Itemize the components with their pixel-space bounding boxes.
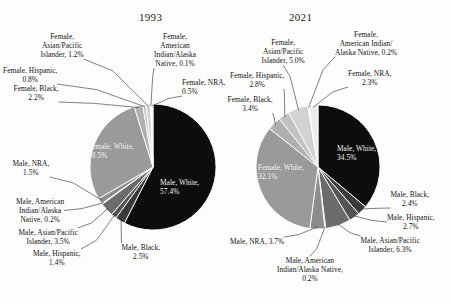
- pie-label-2021-male-nra: Male, NRA, 3.7%: [230, 237, 284, 246]
- figure-canvas: 1993 2021 Male, White, 57.4%Female, Whit…: [0, 0, 452, 303]
- chart-title-2021: 2021: [289, 11, 312, 23]
- pie-label-2021-female-nra: Female, NRA, 2.3%: [348, 69, 392, 87]
- pie-label-2021-female-hispanic: Female, Hispanic, 2.8%: [230, 71, 284, 89]
- pie-label-1993-female-white: Female, White, 28.5%: [88, 142, 134, 160]
- pie-label-2021-male-white: Male, White, 34.5%: [337, 144, 376, 162]
- pie-label-1993-male-nra: Male, NRA, 1.5%: [13, 159, 50, 177]
- leader-line-1993-female-american-indian-alaska-native: [151, 68, 154, 106]
- pie-label-1993-male-hispanic: Male, Hispanic, 1.4%: [33, 249, 81, 267]
- pie-label-1993-male-black: Male, Black, 2.5%: [122, 243, 161, 261]
- pie-label-1993-male-asian-pacific-islander: Male, Asian/Pacific Islander, 3.5%: [19, 228, 78, 246]
- pie-label-2021-female-white: Female, White, 32.1%: [258, 163, 304, 181]
- pie-label-1993-male-american-indian-alaska-native: Male, American Indian/Alaska Native, 0.2…: [16, 197, 64, 224]
- leader-line-2021-female-american-indian-alaska-native: [309, 57, 335, 108]
- pie-label-2021-female-american-indian-alaska-native: Female, American Indian/ Alaska Native, …: [335, 30, 397, 57]
- pie-label-2021-female-black: Female, Black, 3.4%: [228, 95, 273, 113]
- chart-title-1993: 1993: [139, 11, 162, 23]
- pie-label-2021-male-asian-pacific-islander: Male, Asian/Pacific Islander, 6.3%: [361, 236, 420, 254]
- pie-label-2021-male-black: Male, Black, 2.4%: [391, 190, 430, 208]
- pie-label-1993-female-american-indian-alaska-native: Female, American Indian/Alaska Native, 0…: [154, 32, 196, 68]
- pie-label-1993-female-nra: Female, NRA, 0.5%: [182, 78, 226, 96]
- pie-label-1993-female-hispanic: Female, Hispanic, 0.8%: [3, 66, 57, 84]
- pie-label-2021-male-hispanic: Male, Hispanic, 2.7%: [387, 213, 435, 231]
- pie-label-1993-female-asian-pacific-islander: Female, Asian/Pacific Islander, 1.2%: [41, 32, 84, 59]
- leader-line-1993-female-asian-pacific-islander: [84, 59, 149, 106]
- leader-line-2021-male-american-indian-alaska-native: [310, 227, 325, 256]
- pie-label-2021-male-american-indian-alaska-native: Male, American Indian/Alaska Native, 0.2…: [277, 256, 343, 283]
- pie-label-1993-male-white: Male, White, 57.4%: [160, 178, 199, 196]
- pie-label-2021-female-asian-pacific-islander: Female, Asian/Pacific Islander, 5.0%: [262, 38, 305, 65]
- pie-chart-1993: [88, 102, 218, 232]
- pie-label-1993-female-black: Female, Black, 2.2%: [14, 84, 59, 102]
